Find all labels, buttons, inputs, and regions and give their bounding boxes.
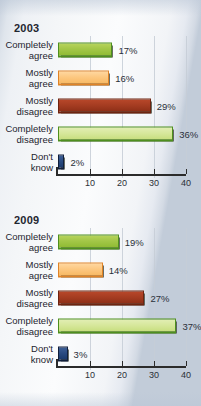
category-label: Completelyagree (0, 232, 53, 253)
category-label-line1: Don't (0, 152, 53, 163)
x-axis-line (56, 174, 186, 176)
plot-area-2003: Completelyagree17%Mostlyagree16%Mostlydi… (58, 36, 186, 178)
x-axis-tick-10 (90, 361, 91, 366)
chart-panel-2009: 2009 Completelyagree19%Mostlyagree14%Mos… (0, 200, 201, 406)
bar-with-value: 27% (58, 291, 169, 306)
x-axis-tick-label: 30 (149, 370, 159, 380)
bar-with-value: 14% (58, 263, 128, 278)
bar-with-value: 2% (58, 155, 84, 170)
category-label: Completelydisagree (0, 316, 53, 337)
x-axis-tick-10 (90, 169, 91, 174)
bar-value-label: 2% (70, 157, 84, 168)
chart-panel-2003: 2003 Completelyagree17%Mostlyagree16%Mos… (0, 0, 201, 200)
category-label-line1: Mostly (0, 68, 53, 79)
bar (58, 291, 144, 306)
bar (58, 347, 68, 362)
x-axis-tick-30 (154, 361, 155, 366)
bar-value-label: 36% (179, 129, 198, 140)
gridline-40 (186, 36, 187, 178)
bar-with-value: 16% (58, 71, 134, 86)
bar-row: Completelydisagree36% (58, 120, 186, 148)
bar-value-label: 16% (115, 73, 134, 84)
bar (58, 43, 112, 58)
bar (58, 235, 119, 250)
bar-row: Completelyagree19% (58, 228, 186, 256)
bar (58, 155, 64, 170)
bar-value-label: 17% (118, 45, 137, 56)
x-axis-tick-40 (186, 361, 187, 366)
chart-figure: 2003 Completelyagree17%Mostlyagree16%Mos… (0, 0, 201, 406)
category-label-line2: agree (0, 78, 53, 89)
bar-row: Completelydisagree37% (58, 312, 186, 340)
x-axis-tick-20 (122, 361, 123, 366)
category-label: Completelyagree (0, 40, 53, 61)
chart-title-2003: 2003 (14, 22, 39, 34)
bar-row: Completelyagree17% (58, 36, 186, 64)
x-axis-tick-label: 10 (85, 370, 95, 380)
category-label: Don'tknow (0, 152, 53, 173)
bar (58, 319, 176, 334)
category-label-line2: disagree (0, 106, 53, 117)
category-label-line2: agree (0, 242, 53, 253)
x-axis-line (56, 366, 186, 368)
category-label-line1: Don't (0, 344, 53, 355)
category-label-line1: Mostly (0, 260, 53, 271)
category-label-line1: Completely (0, 316, 53, 327)
category-label-line1: Mostly (0, 96, 53, 107)
bar-value-label: 29% (157, 101, 176, 112)
bar-with-value: 29% (58, 99, 176, 114)
category-label-line2: disagree (0, 326, 53, 337)
bar-with-value: 37% (58, 319, 201, 334)
x-axis-tick-label: 20 (117, 178, 127, 188)
chart-title-2009: 2009 (14, 214, 39, 226)
bar-with-value: 3% (58, 347, 87, 362)
bar-value-label: 37% (182, 321, 201, 332)
bar-value-label: 27% (150, 293, 169, 304)
bar-row: Mostlyagree16% (58, 64, 186, 92)
bar (58, 99, 151, 114)
x-axis-tick-20 (122, 169, 123, 174)
category-label: Completelydisagree (0, 124, 53, 145)
bar-row: Mostlyagree14% (58, 256, 186, 284)
x-axis-tick-label: 40 (181, 370, 191, 380)
category-label-line1: Completely (0, 232, 53, 243)
x-axis-tick-30 (154, 169, 155, 174)
bar-with-value: 19% (58, 235, 144, 250)
x-axis-tick-40 (186, 169, 187, 174)
bar (58, 127, 173, 142)
category-label-line2: know (0, 162, 53, 173)
category-label-line2: disagree (0, 298, 53, 309)
category-label: Mostlydisagree (0, 96, 53, 117)
category-label-line2: know (0, 354, 53, 365)
bar (58, 71, 109, 86)
bar-value-label: 14% (109, 265, 128, 276)
category-label-line2: agree (0, 50, 53, 61)
x-axis-tick-label: 40 (181, 178, 191, 188)
category-label: Don'tknow (0, 344, 53, 365)
bar-value-label: 3% (74, 349, 88, 360)
gridline-40 (186, 228, 187, 370)
category-label-line2: agree (0, 270, 53, 281)
category-label-line2: disagree (0, 134, 53, 145)
bar (58, 263, 103, 278)
bar-with-value: 17% (58, 43, 137, 58)
plot-area-2009: Completelyagree19%Mostlyagree14%Mostlydi… (58, 228, 186, 370)
category-label-line1: Completely (0, 124, 53, 135)
bar-with-value: 36% (58, 127, 198, 142)
category-label: Mostlyagree (0, 68, 53, 89)
bar-row: Mostlydisagree29% (58, 92, 186, 120)
x-axis-tick-label: 20 (117, 370, 127, 380)
category-label: Mostlyagree (0, 260, 53, 281)
category-label-line1: Completely (0, 40, 53, 51)
bar-row: Mostlydisagree27% (58, 284, 186, 312)
category-label-line1: Mostly (0, 288, 53, 299)
x-axis-tick-label: 30 (149, 178, 159, 188)
category-label: Mostlydisagree (0, 288, 53, 309)
bar-value-label: 19% (125, 237, 144, 248)
x-axis-tick-label: 10 (85, 178, 95, 188)
